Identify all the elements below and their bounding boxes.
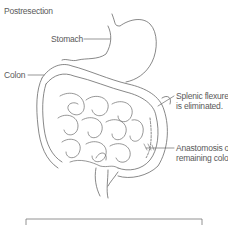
label-splenic-line2: is eliminated. — [176, 101, 223, 111]
stomach-shape — [62, 14, 156, 82]
label-stomach: Stomach — [51, 34, 83, 44]
label-splenic-line1: Splenic flexure — [176, 91, 228, 101]
anatomy-illustration — [0, 0, 228, 225]
colon-shape — [37, 65, 171, 178]
diagram-title: Postresection — [4, 6, 53, 16]
anastomosis-stitches — [144, 144, 154, 150]
rectum-shape — [95, 168, 118, 198]
small-intestine-shape — [58, 93, 143, 168]
splenic-leader — [158, 96, 174, 106]
label-anastomosis-line2: remaining colon — [176, 153, 228, 163]
caption-box-frame — [26, 219, 202, 225]
label-colon: Colon — [4, 70, 25, 80]
label-anastomosis-line1: Anastomosis of — [176, 143, 228, 153]
